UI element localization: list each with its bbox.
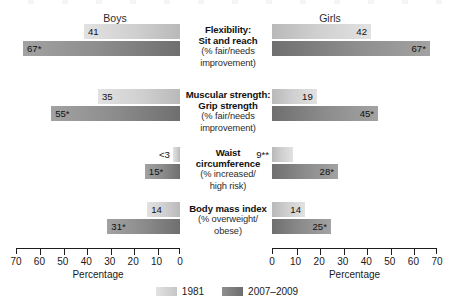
axis-tick-label: 0 (269, 256, 275, 267)
axis-tick-label: 70 (431, 256, 442, 267)
category-label: Muscular strength:Grip strength(% fair/n… (182, 89, 274, 134)
bar-value-label: <3 (159, 150, 170, 160)
category-subtitle-line: (% fair/needs (182, 111, 274, 122)
axis-title-right: Percentage (329, 269, 380, 280)
chart-row: Flexibility:Sit and reach(% fair/needsim… (0, 24, 454, 80)
axis-tick-label: 30 (104, 256, 115, 267)
category-subtitle-line: high risk) (182, 181, 274, 192)
axis-tick (40, 249, 41, 255)
category-subtitle-line: (% fair/needs (182, 46, 274, 57)
chart-row: Waistcircumference(% increased/high risk… (0, 147, 454, 203)
axis-tick (344, 249, 345, 255)
axis-tick-label: 50 (57, 256, 68, 267)
category-title-line: Flexibility: (182, 24, 274, 35)
axis-right (272, 248, 437, 254)
panel-header-boys: Boys (103, 12, 126, 24)
bar-right-2007-2009: 67* (272, 41, 430, 56)
axis-tick-label: 20 (128, 256, 139, 267)
category-title-line: Grip strength (182, 100, 274, 111)
legend-item: 1981 (156, 286, 204, 297)
scan-artifact-strip (0, 0, 454, 4)
legend-label: 1981 (182, 286, 204, 297)
bar-right-2007-2009: 25* (272, 219, 331, 234)
bar-value-label: 55* (55, 109, 69, 119)
bar-value-label: 9** (256, 150, 269, 160)
axis-tick-label: 10 (151, 256, 162, 267)
bar-value-label: 14 (151, 205, 162, 215)
chart-row: Muscular strength:Grip strength(% fair/n… (0, 89, 454, 145)
bar-right-1981: 42 (272, 24, 371, 39)
category-label: Body mass index(% overweight/obese) (182, 203, 274, 237)
axis-tick (134, 249, 135, 255)
axis-tick-label: 60 (34, 256, 45, 267)
bar-value-label: 14 (290, 205, 301, 215)
axis-tick (367, 249, 368, 255)
bar-left-1981: 14 (147, 202, 180, 217)
paired-bar-chart: Boys Girls Flexibility:Sit and reach(% f… (0, 0, 454, 305)
axis-tick-label: 30 (337, 256, 348, 267)
category-subtitle-line: (% overweight/ (182, 214, 274, 225)
bar-right-1981: 14 (272, 202, 305, 217)
axis-tick (87, 249, 88, 255)
category-subtitle-line: improvement) (182, 123, 274, 134)
bar-value-label: 67* (412, 44, 426, 54)
bar-left-1981: <3 (173, 147, 180, 162)
axis-tick (391, 249, 392, 255)
axis-tick (158, 249, 159, 255)
bar-value-label: 19 (302, 92, 313, 102)
bar-left-2007-2009: 55* (51, 106, 180, 121)
bar-left-2007-2009: 31* (107, 219, 180, 234)
bar-value-label: 41 (88, 27, 99, 37)
bar-value-label: 31* (111, 222, 125, 232)
legend-swatch-1981 (156, 287, 177, 296)
bar-value-label: 42 (356, 27, 367, 37)
legend-item: 2007–2009 (222, 286, 298, 297)
axis-tick-label: 40 (81, 256, 92, 267)
legend-label: 2007–2009 (248, 286, 298, 297)
axis-tick (414, 249, 415, 255)
axis-tick-label: 60 (408, 256, 419, 267)
axis-tick (297, 249, 298, 255)
bar-value-label: 28* (320, 167, 334, 177)
axis-tick (111, 249, 112, 255)
axis-tick-label: 70 (10, 256, 21, 267)
axis-left (16, 248, 180, 254)
axis-tick-label: 10 (290, 256, 301, 267)
bar-value-label: 25* (313, 222, 327, 232)
bar-left-2007-2009: 15* (145, 164, 180, 179)
bar-left-1981: 41 (84, 24, 180, 39)
bar-value-label: 45* (360, 109, 374, 119)
bar-value-label: 15* (149, 167, 163, 177)
axis-tick (64, 249, 65, 255)
category-label: Flexibility:Sit and reach(% fair/needsim… (182, 24, 274, 69)
bar-right-2007-2009: 45* (272, 106, 378, 121)
category-subtitle-line: improvement) (182, 58, 274, 69)
category-title-line: Body mass index (182, 203, 274, 214)
bar-left-1981: 35 (98, 89, 180, 104)
axis-tick-label: 20 (314, 256, 325, 267)
category-subtitle-line: obese) (182, 226, 274, 237)
category-subtitle-line: (% increased/ (182, 169, 274, 180)
bar-value-label: 35 (102, 92, 113, 102)
axis-title-left: Percentage (72, 269, 123, 280)
bar-value-label: 67* (27, 44, 41, 54)
bar-right-1981: 19 (272, 89, 317, 104)
legend-swatch-2007-2009 (222, 287, 243, 296)
chart-legend: 19812007–2009 (0, 283, 454, 299)
axis-tick-label: 0 (177, 256, 183, 267)
axis-tick (320, 249, 321, 255)
axis-tick-label: 50 (384, 256, 395, 267)
bar-right-1981: 9** (272, 147, 293, 162)
bar-right-2007-2009: 28* (272, 164, 338, 179)
category-title-line: Sit and reach (182, 35, 274, 46)
category-title-line: Muscular strength: (182, 89, 274, 100)
category-title-line: circumference (182, 158, 274, 169)
bar-left-2007-2009: 67* (23, 41, 180, 56)
axis-tick-label: 40 (361, 256, 372, 267)
panel-header-girls: Girls (319, 12, 341, 24)
